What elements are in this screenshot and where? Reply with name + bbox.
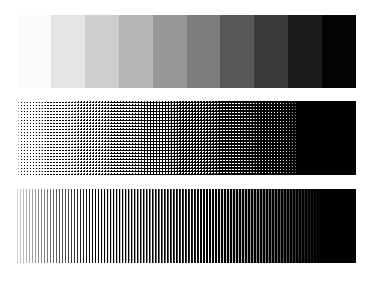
step-wedge-patch — [17, 15, 51, 88]
test-target-canvas — [0, 0, 378, 281]
halftone-dot-screen-strip — [17, 101, 356, 175]
step-wedge-patch — [119, 15, 153, 88]
step-wedge-patch — [153, 15, 187, 88]
grayscale-step-wedge-strip — [17, 15, 356, 88]
step-wedge-patch — [322, 15, 356, 88]
linescreen-gradient-canvas — [17, 189, 356, 263]
step-wedge-patch — [220, 15, 254, 88]
step-wedge-patch — [288, 15, 322, 88]
step-wedge-patch — [51, 15, 85, 88]
vertical-line-screen-strip — [17, 189, 356, 263]
halftone-gradient-canvas — [17, 101, 356, 175]
step-wedge-patch — [85, 15, 119, 88]
step-wedge-patch — [254, 15, 288, 88]
step-wedge-patch — [187, 15, 221, 88]
